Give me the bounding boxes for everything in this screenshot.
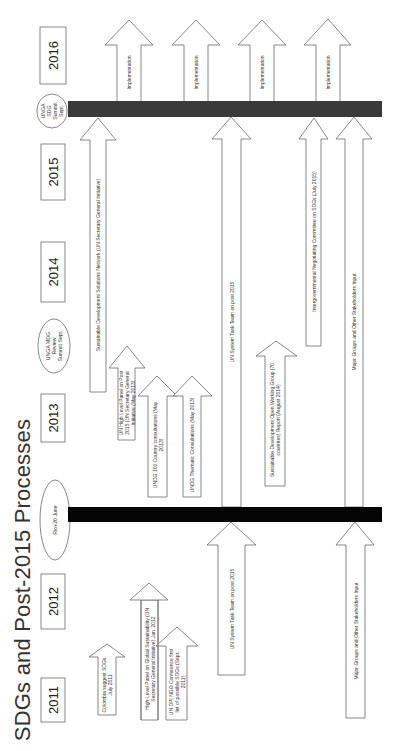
timeline-bar-2015 — [68, 101, 382, 117]
colombia-label: Colombia suggest SDGs July 2011 — [98, 657, 116, 713]
sdsn-label: Sustainable Development Solutions Networ… — [90, 140, 106, 390]
year-label-2015: 2015 — [41, 144, 65, 200]
intergov-label: Intergovernmental Negotiating Committee … — [306, 139, 321, 344]
un-hlp-post2015-label: UN High Level Panel on Post 2015 (UN Sec… — [118, 368, 135, 438]
high-level-panel-gs-arrowhead — [130, 583, 168, 600]
high-level-panel-gs-label: High-Level Panel on Global Sustainabilit… — [141, 600, 158, 718]
un-task-team-pre-label: UN System Task Team on post 2015 — [218, 545, 245, 673]
milestone-rio20: Rio+20 June — [43, 495, 67, 545]
implementation-label-4: Implementation — [316, 45, 340, 100]
milestone-sdg-summit: UNGA SDG Summit Sept. — [39, 98, 65, 124]
year-label-2014: 2014 — [41, 242, 65, 302]
implementation-label-3: Implementation — [250, 45, 274, 100]
diagram-title: SDGs and Post-2015 Processes — [8, 420, 38, 740]
year-label-2016: 2016 — [40, 27, 66, 84]
sdg-timeline-diagram: SDGs and Post-2015 Processes 2011 2012 2… — [0, 0, 396, 751]
year-label-2013: 2013 — [41, 394, 65, 442]
timeline-bar-2012 — [68, 507, 382, 522]
major-groups-pre-label: Major Groups and Other Stakeholders Inpu… — [346, 546, 365, 716]
un-dpi-ngo-label: UN DPI NGO Conference first list of poss… — [166, 646, 187, 718]
implementation-label-2: Implementation — [184, 45, 208, 100]
owg-label: Sustainable Development Open Working Gro… — [265, 356, 285, 484]
milestone-mdg-review: UNGA MDG Review Summit Sept. — [40, 330, 68, 362]
undg-country-label: UNDG 100 Country consultations (May 2013… — [148, 395, 167, 495]
un-task-team-post-label: UN System Task Team on post 2015 — [222, 139, 241, 505]
undg-thematic-label: UNDG Thematic Consultations (May 2013) — [183, 395, 201, 495]
major-groups-post-label: Major Groups and Other Stakeholders Inpu… — [345, 139, 363, 505]
year-label-2012: 2012 — [41, 574, 65, 629]
implementation-label-1: Implementation — [117, 45, 141, 100]
year-label-2011: 2011 — [41, 678, 65, 722]
